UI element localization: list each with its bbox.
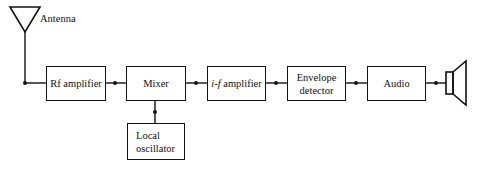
block-label-line1: Local: [136, 129, 160, 142]
block-label-line1: Envelope: [297, 71, 337, 84]
block-label: Audio: [383, 77, 409, 90]
speaker-icon: [446, 61, 466, 105]
block-if-amplifier: i-f amplifier: [207, 66, 266, 101]
block-label: i-f amplifier: [211, 77, 261, 90]
block-mixer: Mixer: [126, 66, 186, 101]
block-envelope-detector: Envelope detector: [287, 66, 346, 101]
block-audio: Audio: [367, 66, 426, 101]
block-label: Mixer: [143, 77, 169, 90]
block-rf-amplifier: Rf amplifier: [46, 66, 106, 101]
block-label-line2: oscillator: [136, 142, 175, 155]
antenna-icon: [10, 7, 40, 83]
block-local-oscillator: Local oscillator: [127, 123, 185, 160]
block-label: Rf amplifier: [50, 77, 102, 90]
antenna-label: Antenna: [40, 13, 76, 24]
block-label-line2: detector: [300, 84, 334, 97]
